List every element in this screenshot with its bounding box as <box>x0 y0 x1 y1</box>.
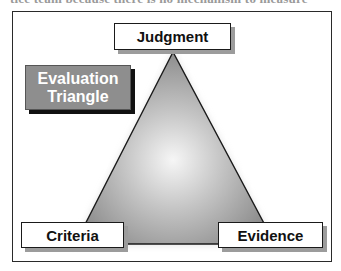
diagram-title-box: Evaluation Triangle <box>25 65 131 110</box>
evidence-text: Evidence <box>238 227 304 244</box>
title-line-1: Evaluation <box>38 70 119 88</box>
criteria-text: Criteria <box>46 227 99 244</box>
judgment-text: Judgment <box>137 28 209 45</box>
title-line-2: Triangle <box>47 88 108 106</box>
vertex-label-evidence: Evidence <box>218 222 323 248</box>
vertex-label-criteria: Criteria <box>21 222 124 248</box>
vertex-label-judgment: Judgment <box>114 23 231 50</box>
